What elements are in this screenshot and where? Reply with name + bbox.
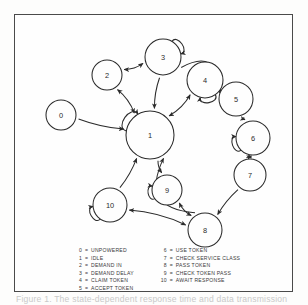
state-label-9: 9 (165, 186, 169, 195)
legend-separator: = (82, 285, 91, 293)
edge-6-to-7 (250, 156, 251, 158)
legend-key: 6 (158, 247, 167, 255)
legend-label: IDLE (91, 255, 103, 263)
legend-row: 4=CLAIM TOKEN (73, 277, 134, 285)
state-label-6: 6 (251, 134, 255, 143)
edge-10-to-1 (120, 158, 137, 187)
legend-separator: = (82, 247, 91, 255)
legend-separator: = (82, 277, 91, 285)
legend-row: 3=DEMAND DELAY (73, 270, 134, 278)
legend-key: 0 (73, 247, 82, 255)
legend-separator: = (167, 277, 176, 285)
legend-separator: = (167, 262, 176, 270)
legend-label: ACCEPT TOKEN (91, 285, 133, 293)
legend-row: 0=UNPOWERED (73, 247, 134, 255)
state-label-7: 7 (248, 171, 252, 180)
edge-1-to-4 (169, 95, 190, 116)
legend-key: 10 (158, 277, 167, 285)
legend-label: USE TOKEN (176, 247, 208, 255)
legend-separator: = (82, 255, 91, 263)
state-node-3[interactable]: 3 (145, 39, 181, 75)
edge-5-to-6 (244, 117, 245, 119)
legend-row: 7=CHECK SERVICE CLASS (158, 255, 240, 263)
legend-key: 5 (73, 285, 82, 293)
legend-separator: = (167, 247, 176, 255)
legend-label: CHECK SERVICE CLASS (176, 255, 240, 263)
legend-label: CLAIM TOKEN (91, 277, 128, 285)
legend-key: 3 (73, 270, 82, 278)
legend: 0=UNPOWERED1=IDLE2=DEMAND IN3=DEMAND DEL… (73, 247, 273, 293)
state-node-4[interactable]: 4 (187, 62, 223, 98)
state-node-10[interactable]: 10 (93, 188, 127, 222)
state-label-2: 2 (105, 71, 109, 80)
state-node-9[interactable]: 9 (152, 175, 182, 205)
state-label-0: 0 (59, 111, 63, 120)
legend-key: 1 (73, 255, 82, 263)
edge-2-to-3 (124, 63, 143, 69)
legend-row: 2=DEMAND IN (73, 262, 134, 270)
nodes-layer: 012345678910 (46, 39, 270, 247)
state-node-8[interactable]: 8 (188, 213, 222, 247)
state-label-4: 4 (203, 76, 207, 85)
legend-row: 10=AWAIT RESPONSE (158, 277, 240, 285)
state-label-1: 1 (148, 131, 152, 140)
legend-separator: = (167, 255, 176, 263)
legend-separator: = (82, 262, 91, 270)
state-label-10: 10 (106, 201, 114, 210)
state-node-5[interactable]: 5 (219, 82, 253, 116)
figure-caption: Figure 1. The state-dependent response t… (16, 294, 302, 304)
state-node-6[interactable]: 6 (236, 121, 270, 155)
edge-7-to-8 (218, 190, 238, 215)
state-node-2[interactable]: 2 (92, 60, 122, 90)
legend-separator: = (82, 270, 91, 278)
edge-1-to-2 (117, 90, 134, 113)
edge-9-to-8 (179, 203, 191, 215)
state-label-5: 5 (234, 95, 238, 104)
state-label-3: 3 (161, 53, 165, 62)
state-node-0[interactable]: 0 (46, 100, 76, 130)
state-node-1[interactable]: 1 (126, 111, 174, 159)
legend-label: PASS TOKEN (176, 262, 211, 270)
legend-row: 9=CHECK TOKEN PASS (158, 270, 240, 278)
edge-0-to-1 (79, 119, 124, 129)
figure-frame: 012345678910 0=UNPOWERED1=IDLE2=DEMAND I… (14, 14, 293, 292)
legend-row: 1=IDLE (73, 255, 134, 263)
legend-key: 2 (73, 262, 82, 270)
edge-8-to-10 (129, 210, 185, 225)
legend-key: 7 (158, 255, 167, 263)
legend-key: 9 (158, 270, 167, 278)
legend-key: 8 (158, 262, 167, 270)
legend-label: DEMAND DELAY (91, 270, 134, 278)
figure-page: 012345678910 0=UNPOWERED1=IDLE2=DEMAND I… (0, 0, 308, 305)
legend-label: DEMAND IN (91, 262, 122, 270)
legend-label: CHECK TOKEN PASS (176, 270, 231, 278)
legend-label: AWAIT RESPONSE (176, 277, 225, 285)
legend-row: 5=ACCEPT TOKEN (73, 285, 134, 293)
legend-key: 4 (73, 277, 82, 285)
edge-3-to-1 (154, 78, 159, 109)
legend-row: 8=PASS TOKEN (158, 262, 240, 270)
legend-separator: = (167, 270, 176, 278)
legend-column-right: 6=USE TOKEN7=CHECK SERVICE CLASS8=PASS T… (158, 247, 240, 293)
state-label-8: 8 (203, 226, 207, 235)
state-node-7[interactable]: 7 (234, 159, 266, 191)
legend-row: 6=USE TOKEN (158, 247, 240, 255)
legend-label: UNPOWERED (91, 247, 127, 255)
legend-column-left: 0=UNPOWERED1=IDLE2=DEMAND IN3=DEMAND DEL… (73, 247, 134, 293)
